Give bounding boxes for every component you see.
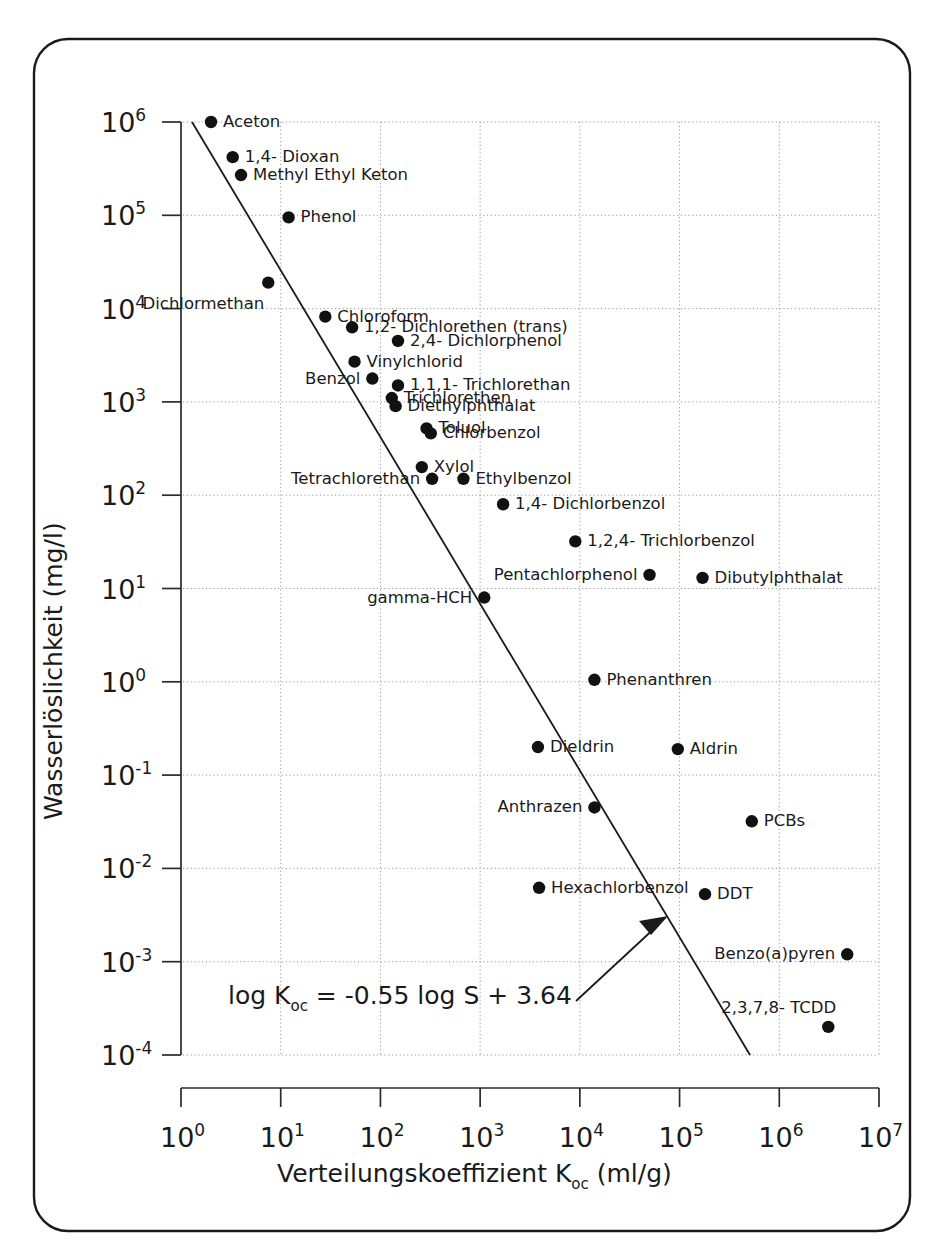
y-tick-base: 10 xyxy=(101,853,135,884)
y-tick-exponent: -3 xyxy=(135,945,152,965)
y-tick-base: 10 xyxy=(101,574,135,605)
x-tick-base: 10 xyxy=(858,1122,892,1153)
y-tick-base: 10 xyxy=(101,480,135,511)
equation-main-2: = -0.55 log S + 3.64 xyxy=(308,981,572,1010)
y-tick-exponent: 2 xyxy=(135,478,146,498)
data-point: 2,4- Dichlorphenol xyxy=(392,331,562,350)
point-label: Dieldrin xyxy=(550,737,614,756)
point-label: 1,4- Dioxan xyxy=(245,147,340,166)
y-tick-base: 10 xyxy=(101,294,135,325)
x-tick-base: 10 xyxy=(758,1122,792,1153)
point-marker xyxy=(822,1021,834,1033)
x-tick-base: 10 xyxy=(459,1122,493,1153)
point-label: Dibutylphthalat xyxy=(715,568,844,587)
x-tick-exponent: 6 xyxy=(793,1120,804,1140)
y-tick-base: 10 xyxy=(101,1040,135,1071)
figure-root: 10610510410310210110010-110-210-310-4 10… xyxy=(0,0,930,1259)
point-marker xyxy=(497,498,509,510)
point-label: 1,4- Dichlorbenzol xyxy=(515,494,665,513)
point-marker xyxy=(533,882,545,894)
point-marker xyxy=(227,151,239,163)
data-point: Methyl Ethyl Keton xyxy=(235,165,408,184)
point-marker xyxy=(672,743,684,755)
data-point: Chlorbenzol xyxy=(425,423,541,442)
point-marker xyxy=(841,948,853,960)
point-label: Anthrazen xyxy=(498,797,583,816)
data-point: Phenanthren xyxy=(588,670,712,689)
point-marker xyxy=(235,169,247,181)
data-point: Dibutylphthalat xyxy=(696,568,843,587)
point-label: Diethylphthalat xyxy=(408,396,536,415)
x-tick-exponent: 5 xyxy=(693,1120,704,1140)
y-tick-exponent: -2 xyxy=(135,851,152,871)
y-tick-exponent: -4 xyxy=(135,1038,152,1058)
point-marker xyxy=(426,473,438,485)
point-marker xyxy=(696,572,708,584)
point-label: Phenol xyxy=(301,207,357,226)
point-marker xyxy=(348,355,360,367)
point-marker xyxy=(457,473,469,485)
point-marker xyxy=(643,569,655,581)
y-tick-base: 10 xyxy=(101,200,135,231)
x-tick-exponent: 3 xyxy=(494,1120,505,1140)
point-label: Ethylbenzol xyxy=(475,469,571,488)
point-marker xyxy=(588,674,600,686)
point-marker xyxy=(478,591,490,603)
point-label: Aceton xyxy=(223,112,280,131)
data-point: 1,2,4- Trichlorbenzol xyxy=(569,531,755,550)
y-tick-base: 10 xyxy=(101,387,135,418)
x-tick-base: 10 xyxy=(260,1122,294,1153)
x-tick-base: 10 xyxy=(659,1122,693,1153)
point-marker xyxy=(262,276,274,288)
point-marker xyxy=(699,888,711,900)
point-marker xyxy=(532,741,544,753)
y-tick-exponent: 5 xyxy=(135,198,146,218)
point-marker xyxy=(282,211,294,223)
point-marker xyxy=(392,379,404,391)
point-label: Dichlormethan xyxy=(143,294,265,313)
y-tick-base: 10 xyxy=(101,947,135,978)
point-label: 2,4- Dichlorphenol xyxy=(410,331,562,350)
point-marker xyxy=(389,400,401,412)
point-label: Benzo(a)pyren xyxy=(714,944,835,963)
canvas-background xyxy=(0,0,930,1259)
point-marker xyxy=(366,372,378,384)
x-tick-exponent: 0 xyxy=(194,1120,205,1140)
point-marker xyxy=(588,801,600,813)
data-point: Diethylphthalat xyxy=(389,396,536,415)
y-axis-title-group: Wasserlöslichkeit (mg/l) xyxy=(39,522,68,820)
point-label: 1,2,4- Trichlorbenzol xyxy=(587,531,755,550)
point-label: Benzol xyxy=(305,369,360,388)
point-label: Tetrachlorethan xyxy=(290,469,420,488)
point-label: Pentachlorphenol xyxy=(494,565,638,584)
equation-subscript: oc xyxy=(290,997,307,1015)
x-tick-base: 10 xyxy=(359,1122,393,1153)
data-point: Tetrachlorethan xyxy=(290,469,438,488)
data-point: Pentachlorphenol xyxy=(494,565,656,584)
x-tick-base: 10 xyxy=(559,1122,593,1153)
point-label: Phenanthren xyxy=(606,670,712,689)
y-tick-exponent: 1 xyxy=(135,572,146,592)
equation-main-1: log K xyxy=(228,981,291,1010)
point-marker xyxy=(392,335,404,347)
x-axis-title-group: Verteilungskoeffizient Koc (ml/g) xyxy=(277,1159,672,1193)
x-tick-exponent: 2 xyxy=(394,1120,405,1140)
point-marker xyxy=(205,116,217,128)
y-tick-exponent: 6 xyxy=(135,105,146,125)
y-tick-exponent: -1 xyxy=(135,758,152,778)
point-marker xyxy=(425,427,437,439)
point-marker xyxy=(569,535,581,547)
y-tick-exponent: 3 xyxy=(135,385,146,405)
x-axis-title-main: Verteilungskoeffizient K xyxy=(277,1159,572,1188)
x-axis-title: Verteilungskoeffizient Koc (ml/g) xyxy=(277,1159,672,1193)
data-point: Hexachlorbenzol xyxy=(533,878,689,897)
x-tick-exponent: 4 xyxy=(593,1120,604,1140)
point-label: Xylol xyxy=(434,457,474,476)
x-axis-title-subscript: oc xyxy=(571,1175,588,1193)
point-marker xyxy=(746,815,758,827)
data-point: Benzo(a)pyren xyxy=(714,944,853,963)
point-label: Methyl Ethyl Keton xyxy=(253,165,408,184)
point-label: Hexachlorbenzol xyxy=(551,878,689,897)
data-point: 1,4- Dichlorbenzol xyxy=(497,494,665,513)
point-marker xyxy=(346,321,358,333)
